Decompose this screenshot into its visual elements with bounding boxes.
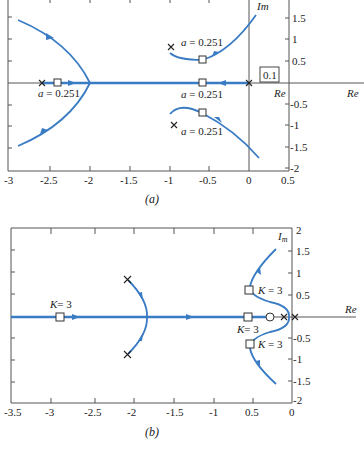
plot-a-y-tick-labels: 1.5 1 0.5 -0.5 -1 -1.5 -2 — [290, 12, 308, 174]
svg-text:K = 3: K = 3 — [257, 338, 283, 350]
square-marker-icon — [245, 286, 253, 294]
plot-a-bottom-ticks — [50, 0, 209, 171]
square-marker-icon — [54, 79, 61, 86]
plot-a: -3 -2.5 -2 -1.5 -1 -0.5 0 0.5 1.5 1 0.5 … — [4, 0, 364, 206]
svg-text:-1.5: -1.5 — [120, 174, 138, 186]
svg-text:-1.5: -1.5 — [290, 141, 308, 153]
svg-text:1: 1 — [296, 267, 302, 279]
svg-text:-2: -2 — [293, 394, 302, 406]
svg-text:a = 0.251: a = 0.251 — [181, 88, 223, 100]
svg-text:0: 0 — [289, 406, 295, 418]
square-marker-icon — [199, 109, 206, 116]
square-marker-icon — [246, 340, 254, 348]
plot-b-caption: (b) — [145, 425, 159, 439]
svg-text:1.5: 1.5 — [292, 12, 306, 24]
svg-text:-1: -1 — [290, 119, 299, 131]
plot-a-re-label-outer: Re — [346, 87, 359, 99]
svg-text:-1: -1 — [209, 406, 218, 418]
plot-b-x-tick-labels: -3.5 -3 -2.5 -2 -1.5 -1 0.5 0 — [4, 406, 295, 418]
svg-text:-3: -3 — [45, 406, 55, 418]
svg-text:a = 0.251: a = 0.251 — [181, 125, 223, 137]
svg-text:-1: -1 — [164, 174, 173, 186]
svg-text:1.5: 1.5 — [296, 245, 310, 257]
svg-text:-0.5: -0.5 — [199, 174, 217, 186]
svg-text:-1: -1 — [293, 353, 302, 365]
pole-icon — [124, 276, 131, 283]
pole-icon — [168, 44, 174, 50]
plot-a-x-tick-labels: -3 -2.5 -2 -1.5 -1 -0.5 0 0.5 — [4, 174, 295, 186]
svg-text:-1.5: -1.5 — [293, 375, 311, 387]
svg-text:0: 0 — [246, 174, 252, 186]
svg-text:-2: -2 — [290, 162, 299, 174]
plot-b-y-tick-labels: 2 1.5 1 0.5 -0.5 -1 -1.5 -2 — [293, 224, 311, 406]
svg-text:-0.5: -0.5 — [290, 98, 308, 110]
pole-icon — [124, 351, 131, 358]
svg-text:-2.5: -2.5 — [84, 406, 102, 418]
svg-text:-3: -3 — [4, 174, 14, 186]
svg-text:-0.5: -0.5 — [293, 332, 311, 344]
svg-text:1: 1 — [292, 33, 298, 45]
plot-b: -3.5 -3 -2.5 -2 -1.5 -1 0.5 0 2 1.5 1 0.… — [4, 224, 357, 439]
svg-text:0.5: 0.5 — [296, 289, 310, 301]
plot-b-re-label: Re — [344, 303, 357, 315]
svg-text:K= 3: K= 3 — [49, 298, 72, 310]
square-marker-icon — [199, 79, 206, 86]
square-marker-icon — [56, 313, 64, 321]
svg-text:K= 3: K= 3 — [236, 323, 259, 335]
square-marker-icon — [199, 56, 206, 63]
svg-text:a = 0.251: a = 0.251 — [38, 87, 80, 99]
svg-text:0.5: 0.5 — [281, 174, 295, 186]
svg-text:K = 3: K = 3 — [257, 284, 283, 296]
plot-a-re-label-inner: Re — [273, 87, 286, 99]
plot-a-boxed-value: 0.1 — [263, 69, 277, 81]
svg-text:-3.5: -3.5 — [4, 406, 22, 418]
svg-text:0.5: 0.5 — [292, 55, 306, 67]
root-locus-figure: -3 -2.5 -2 -1.5 -1 -0.5 0 0.5 1.5 1 0.5 … — [0, 0, 364, 454]
svg-text:-2: -2 — [84, 174, 93, 186]
plot-a-im-label: Im — [256, 0, 269, 12]
square-marker-icon — [244, 313, 252, 321]
svg-text:-2.5: -2.5 — [40, 174, 58, 186]
pole-icon — [171, 122, 177, 128]
svg-text:-2: -2 — [127, 406, 136, 418]
svg-text:-1.5: -1.5 — [166, 406, 184, 418]
plot-a-caption: (a) — [145, 192, 159, 206]
svg-text:2: 2 — [296, 224, 302, 236]
svg-text:0.5: 0.5 — [245, 406, 259, 418]
svg-text:a = 0.251: a = 0.251 — [181, 36, 223, 48]
zero-marker-icon — [266, 313, 274, 321]
plot-b-im-label: Im — [277, 230, 288, 244]
